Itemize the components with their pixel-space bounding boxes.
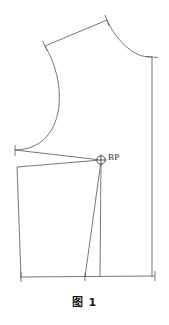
neckline-curve: [107, 20, 152, 57]
shoulder-tip-tick-icon: [43, 41, 48, 51]
side-seam-line: [17, 167, 21, 277]
waist-dart-right-leg: [100, 161, 101, 276]
bust-dart-upper-leg: [15, 150, 101, 160]
figure-caption: 图 1: [0, 297, 169, 308]
waist-dart-left-leg: [85, 161, 101, 277]
bust-point-icon: [96, 155, 107, 166]
center-front-top-tick-icon: [146, 57, 158, 58]
tick-marks-group: [15, 15, 158, 282]
shoulder-line: [45, 20, 107, 46]
pattern-drawing: [0, 0, 169, 325]
bust-point-label: BP: [108, 153, 119, 162]
armhole-curve: [15, 46, 59, 150]
hem-line: [20, 276, 155, 277]
bust-dart-lower-leg: [17, 160, 101, 167]
figure-container: BP 图 1: [0, 0, 169, 325]
